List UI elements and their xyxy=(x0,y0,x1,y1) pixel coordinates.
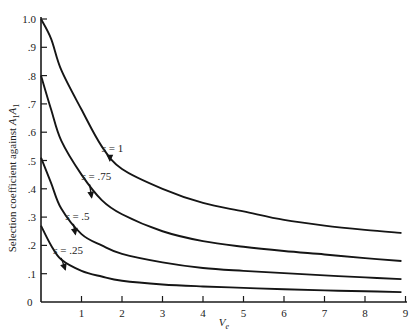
x-tick-label: 5 xyxy=(241,307,247,319)
y-tick-label: 1.0 xyxy=(22,13,36,25)
y-tick-label: .4 xyxy=(28,183,37,195)
x-tick-label: 9 xyxy=(403,307,409,319)
x-tick-label: 7 xyxy=(322,307,328,319)
y-tick-label: .8 xyxy=(28,70,37,82)
x-tick-label: 3 xyxy=(160,307,166,319)
y-tick-label: .2 xyxy=(28,239,36,251)
x-axis-ticks: 123456789 xyxy=(79,296,409,319)
y-axis-title-sub2: 1 xyxy=(12,104,21,108)
y-tick-label: .3 xyxy=(28,211,37,223)
x-tick-label: 8 xyxy=(362,307,368,319)
y-tick-label: .9 xyxy=(28,41,37,53)
y-tick-label: .5 xyxy=(28,155,37,167)
y-tick-label: .1 xyxy=(28,268,36,280)
y-axis-ticks: .1.2.3.4.5.6.7.8.91.0 xyxy=(22,13,47,280)
x-axis-title: Ve xyxy=(219,316,230,331)
y-axis-title-text: Selection coefficient against xyxy=(6,125,18,252)
x-tick-label: 2 xyxy=(119,307,125,319)
y-axis-title: Selection coefficient against A1A1 xyxy=(6,104,21,253)
series-label: s = 1 xyxy=(102,142,124,154)
curve-s-1 xyxy=(41,19,401,233)
series-label: s = .5 xyxy=(65,210,90,222)
x-tick-label: 6 xyxy=(281,307,287,319)
curve-s-75 xyxy=(41,76,401,261)
selection-coefficient-chart: .1.2.3.4.5.6.7.8.91.0 123456789 s = 1s =… xyxy=(0,0,420,336)
x-tick-label: 4 xyxy=(200,307,206,319)
y-tick-label: .6 xyxy=(28,126,37,138)
arrowhead-icon xyxy=(88,192,93,197)
curve-s-25 xyxy=(41,226,401,293)
x-axis-title-sub: e xyxy=(226,322,230,331)
arrowhead-icon xyxy=(61,264,66,270)
origin-label: 0 xyxy=(27,296,33,308)
arrowhead-icon xyxy=(72,229,77,234)
series-label: s = .75 xyxy=(82,170,112,182)
series-curves xyxy=(41,19,401,292)
series-label: s = .25 xyxy=(53,244,83,256)
x-tick-label: 1 xyxy=(79,307,85,319)
y-tick-label: .7 xyxy=(28,98,37,110)
